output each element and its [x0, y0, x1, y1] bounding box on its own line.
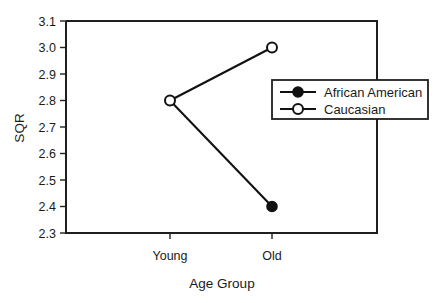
- series-line-african-american: [170, 101, 272, 207]
- legend-label-caucasian: Caucasian: [324, 102, 385, 117]
- y-tick-label-2.5: 2.5: [39, 174, 56, 188]
- open-circle-icon: [293, 104, 303, 114]
- y-axis-title: SQR: [12, 113, 27, 143]
- y-tick-label-2.9: 2.9: [39, 68, 56, 82]
- y-tick-label-2.6: 2.6: [39, 147, 56, 161]
- data-point-young-2.8: [165, 96, 175, 106]
- y-tick-label-3.1: 3.1: [39, 15, 56, 29]
- legend-label-african-american: African American: [324, 85, 422, 100]
- chart-container: 2.3 2.4 2.5 2.6 2.7 2.8 2.9 3.0 3.1 SQR …: [0, 0, 446, 303]
- x-tick-label-young: Young: [153, 249, 188, 263]
- y-tick-label-2.4: 2.4: [39, 200, 56, 214]
- y-axis-tick-labels: 2.3 2.4 2.5 2.6 2.7 2.8 2.9 3.0 3.1: [39, 15, 56, 241]
- filled-circle-icon: [293, 87, 303, 97]
- x-axis-title: Age Group: [189, 276, 254, 291]
- x-tick-label-old: Old: [262, 249, 282, 263]
- y-tick-label-2.8: 2.8: [39, 94, 56, 108]
- y-tick-label-2.3: 2.3: [39, 227, 56, 241]
- y-tick-label-2.7: 2.7: [39, 121, 56, 135]
- chart-legend: African American Caucasian: [272, 80, 428, 119]
- y-tick-label-3.0: 3.0: [39, 41, 56, 55]
- line-chart-svg: 2.3 2.4 2.5 2.6 2.7 2.8 2.9 3.0 3.1 SQR …: [0, 0, 446, 303]
- plot-frame: [66, 21, 377, 233]
- data-point-african-american-old-2.4: [267, 202, 277, 212]
- data-point-caucasian-old-3.0: [267, 43, 277, 53]
- series-line-caucasian: [170, 48, 272, 101]
